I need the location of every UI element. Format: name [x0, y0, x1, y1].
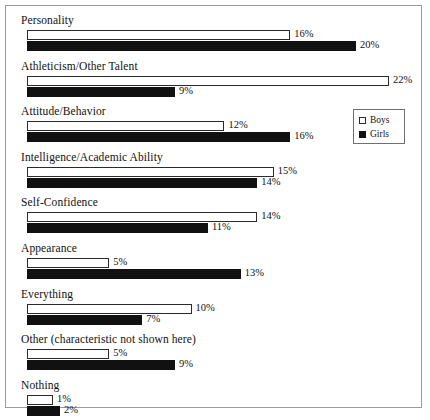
- category-label: Nothing: [21, 379, 59, 392]
- bar-girls: [27, 406, 60, 416]
- bar-girls: [27, 315, 142, 325]
- bar-boys: [27, 258, 109, 268]
- legend-item-label: Boys: [370, 115, 390, 126]
- category-label: Everything: [21, 288, 73, 301]
- legend-item-label: Girls: [370, 129, 389, 140]
- bar-value-label: 10%: [196, 302, 215, 314]
- bar-value-label: 5%: [113, 256, 127, 268]
- bar-value-label: 9%: [179, 358, 193, 370]
- chart-frame: Personality16%20%Athleticism/Other Talen…: [5, 5, 422, 408]
- category-label: Attitude/Behavior: [21, 105, 106, 118]
- bar-value-label: 7%: [146, 313, 160, 325]
- bar-value-label: 11%: [212, 221, 231, 233]
- girls-swatch-icon: [359, 131, 366, 138]
- bar-value-label: 16%: [294, 130, 313, 142]
- bar-value-label: 12%: [228, 119, 247, 131]
- bar-value-label: 9%: [179, 85, 193, 97]
- bar-girls: [27, 41, 356, 51]
- bar-girls: [27, 178, 257, 188]
- legend-item-girls: Girls: [359, 128, 404, 141]
- bar-boys: [27, 395, 53, 405]
- bar-boys: [27, 304, 192, 314]
- bar-girls: [27, 223, 208, 233]
- bar-value-label: 5%: [113, 347, 127, 359]
- bar-value-label: 16%: [294, 28, 313, 40]
- bar-boys: [27, 167, 274, 177]
- category-label: Intelligence/Academic Ability: [21, 151, 163, 164]
- bar-girls: [27, 87, 175, 97]
- bar-value-label: 22%: [393, 74, 412, 86]
- category-label: Self-Confidence: [21, 196, 98, 209]
- category-label: Appearance: [21, 242, 77, 255]
- category-label: Athleticism/Other Talent: [21, 60, 138, 73]
- bar-value-label: 20%: [360, 39, 379, 51]
- bar-value-label: 13%: [245, 267, 264, 279]
- bar-boys: [27, 76, 389, 86]
- bar-boys: [27, 121, 224, 131]
- bar-value-label: 14%: [261, 210, 280, 222]
- boys-swatch-icon: [359, 117, 366, 124]
- bar-value-label: 15%: [278, 165, 297, 177]
- category-label: Other (characteristic not shown here): [21, 333, 196, 346]
- bar-girls: [27, 269, 241, 279]
- bar-boys: [27, 30, 290, 40]
- legend-item-boys: Boys: [359, 114, 404, 127]
- chart-legend: Boys Girls: [353, 109, 405, 144]
- category-label: Personality: [21, 14, 74, 27]
- bar-value-label: 2%: [64, 404, 78, 416]
- bar-boys: [27, 349, 109, 359]
- bar-girls: [27, 132, 290, 142]
- bar-girls: [27, 360, 175, 370]
- bar-value-label: 14%: [261, 176, 280, 188]
- chart-plot-area: Personality16%20%Athleticism/Other Talen…: [6, 6, 421, 407]
